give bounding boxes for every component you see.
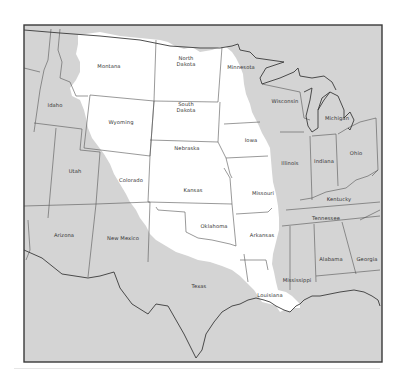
- label-north-dakota: NorthDakota: [177, 55, 196, 67]
- label-georgia: Georgia: [356, 256, 377, 262]
- label-tennessee: Tennessee: [312, 215, 340, 221]
- label-arkansas: Arkansas: [250, 232, 274, 238]
- label-indiana: Indiana: [314, 158, 334, 164]
- label-wyoming: Wyoming: [108, 119, 133, 125]
- label-montana: Montana: [97, 63, 120, 69]
- label-missouri: Missouri: [252, 190, 274, 196]
- label-idaho: Idaho: [48, 102, 63, 108]
- label-louisiana: Louisiana: [257, 292, 282, 298]
- label-ohio: Ohio: [350, 150, 362, 156]
- label-arizona: Arizona: [54, 232, 74, 238]
- label-south-dakota: SouthDakota: [177, 101, 196, 113]
- label-mississippi: Mississippi: [283, 277, 312, 283]
- label-texas: Texas: [192, 283, 207, 289]
- label-nebraska: Nebraska: [174, 145, 199, 151]
- label-north-dakota-line2: Dakota: [177, 61, 196, 67]
- label-iowa: Iowa: [245, 137, 258, 143]
- label-illinois: Illinois: [281, 160, 298, 166]
- map-figure: Montana NorthDakota Minnesota Wisconsin …: [0, 0, 404, 381]
- label-minnesota: Minnesota: [227, 64, 255, 70]
- label-utah: Utah: [69, 168, 82, 174]
- bottom-divider: [14, 368, 380, 369]
- label-wisconsin: Wisconsin: [272, 98, 299, 104]
- label-new-mexico: New Mexico: [107, 235, 139, 241]
- label-kansas: Kansas: [184, 187, 203, 193]
- label-kentucky: Kentucky: [327, 196, 352, 202]
- label-colorado: Colorado: [119, 177, 143, 183]
- label-oklahoma: Oklahoma: [200, 223, 227, 229]
- label-michigan: Michigan: [325, 115, 349, 121]
- label-alabama: Alabama: [319, 256, 343, 262]
- label-south-dakota-line2: Dakota: [177, 107, 196, 113]
